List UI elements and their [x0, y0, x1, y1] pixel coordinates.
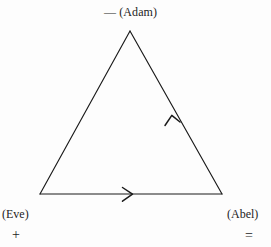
vertex-sign-adam: — [104, 5, 116, 19]
edge-adam-to-eve [40, 31, 130, 194]
edge-abel-to-adam [130, 31, 222, 194]
vertex-label-adam-group: — (Adam) [104, 6, 157, 19]
vertex-label-adam: (Adam) [119, 5, 157, 19]
vertex-label-abel: (Abel) [227, 208, 258, 221]
vertex-label-eve: (Eve) [2, 208, 29, 221]
figure-canvas: — (Adam) (Eve) + (Abel) = [0, 0, 271, 247]
arrowhead-abel-to-adam-icon [165, 115, 180, 125]
vertex-sign-abel: = [245, 229, 253, 242]
vertex-sign-eve: + [12, 228, 20, 241]
